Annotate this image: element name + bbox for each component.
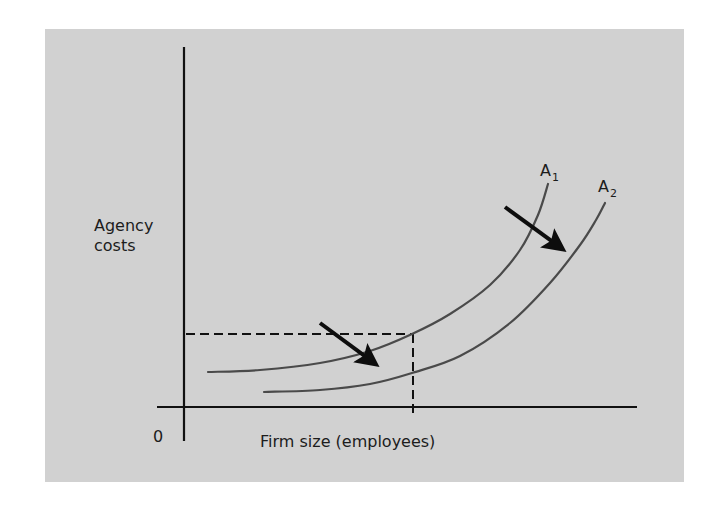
origin-label: 0 (153, 427, 163, 446)
curve-a1-label: A1 (540, 161, 559, 184)
curve-a2-label: A2 (598, 177, 617, 200)
x-axis-label: Firm size (employees) (260, 432, 435, 451)
shift-arrow-icon (505, 207, 561, 248)
curve-a1 (208, 184, 548, 372)
y-axis-label-line1: Agency (94, 216, 153, 235)
y-axis-label-line2: costs (94, 236, 136, 255)
agency-cost-chart: A1 A2 Agency costs 0 Firm size (employee… (0, 0, 721, 511)
